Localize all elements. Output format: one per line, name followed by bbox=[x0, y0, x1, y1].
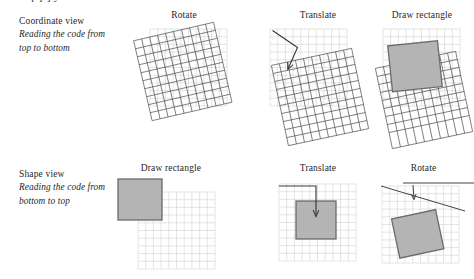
coordinate-view-subtitle-line-1: Reading the code from bbox=[19, 28, 139, 42]
panel-draw-rectangle-coordinate-stage bbox=[370, 23, 474, 145]
panel-rotate-shape-title: Rotate bbox=[373, 163, 474, 173]
panel-translate-coordinate: Translate bbox=[262, 10, 374, 150]
clipped-header-text: a a p p j y x bbox=[16, 0, 68, 2]
panel-draw-rectangle-coordinate-title: Draw rectangle bbox=[370, 10, 474, 20]
rotated-gray-rectangle bbox=[392, 210, 444, 258]
shape-view-row: Shape view Reading the code from bottom … bbox=[0, 163, 474, 279]
gray-rectangle bbox=[118, 179, 162, 220]
coordinate-view-row: Coordinate view Reading the code from to… bbox=[0, 10, 474, 150]
rotated-dark-grid bbox=[271, 48, 368, 145]
panel-rotate-coordinate-title: Rotate bbox=[128, 10, 240, 20]
panel-translate-coordinate-stage bbox=[262, 23, 374, 145]
rotation-arrow bbox=[381, 183, 474, 211]
panel-translate-shape: Translate bbox=[263, 163, 373, 279]
coordinate-view-descriptor: Coordinate view Reading the code from to… bbox=[19, 14, 139, 55]
panel-draw-rectangle-shape-title: Draw rectangle bbox=[110, 163, 232, 173]
panel-draw-rectangle-shape: Draw rectangle bbox=[110, 163, 232, 279]
panel-translate-shape-stage bbox=[263, 176, 373, 279]
gray-rectangle bbox=[388, 41, 443, 92]
translate-arrow bbox=[273, 31, 298, 70]
coordinate-view-title: Coordinate view bbox=[19, 14, 139, 28]
panel-rotate-shape: Rotate bbox=[373, 163, 474, 279]
panel-rotate-coordinate-stage bbox=[128, 23, 240, 145]
panel-rotate-coordinate: Rotate bbox=[128, 10, 240, 150]
coordinate-view-subtitle-line-2: top to bottom bbox=[19, 42, 139, 56]
light-grid bbox=[270, 29, 347, 106]
panel-translate-shape-title: Translate bbox=[263, 163, 373, 173]
coordinate-view-subtitle: Reading the code from top to bottom bbox=[19, 28, 139, 55]
panel-rotate-shape-stage bbox=[373, 176, 474, 279]
panel-draw-rectangle-coordinate: Draw rectangle bbox=[370, 10, 474, 150]
panel-draw-rectangle-shape-stage bbox=[110, 176, 232, 279]
panel-translate-coordinate-title: Translate bbox=[262, 10, 374, 20]
